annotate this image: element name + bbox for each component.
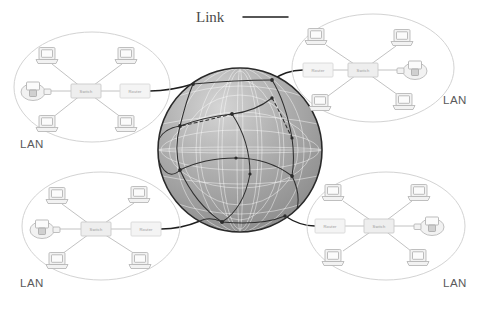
laptop-computer-icon bbox=[36, 48, 58, 64]
switch-box-icon: Switch bbox=[71, 84, 101, 98]
internet-globe bbox=[154, 64, 322, 236]
printer-icon bbox=[30, 220, 60, 239]
switch-label: Switch bbox=[80, 89, 94, 94]
printer-icon bbox=[414, 217, 444, 236]
router-box-icon: Router bbox=[120, 84, 150, 98]
switch-label: Switch bbox=[373, 224, 387, 229]
laptop-computer-icon bbox=[115, 48, 137, 64]
network-topology-figure: Link bbox=[0, 0, 481, 311]
switch-label: Switch bbox=[90, 227, 104, 232]
switch-box-icon: Switch bbox=[364, 219, 394, 233]
laptop-computer-icon bbox=[322, 250, 344, 266]
laptop-computer-icon bbox=[36, 116, 58, 132]
laptop-computer-icon bbox=[393, 94, 415, 110]
laptop-computer-icon bbox=[407, 250, 429, 266]
laptop-computer-icon bbox=[309, 95, 331, 111]
lan-top-right: Router Switch LAN bbox=[292, 14, 467, 122]
laptop-computer-icon bbox=[391, 30, 413, 46]
lan-top-left: Switch Router LAN bbox=[14, 32, 170, 150]
router-box-icon: Router bbox=[303, 63, 333, 77]
laptop-computer-icon bbox=[322, 185, 344, 201]
router-label: Router bbox=[311, 68, 325, 73]
printer-icon bbox=[21, 82, 51, 101]
laptop-computer-icon bbox=[408, 185, 430, 201]
lan-bottom-right: Router Switch LAN bbox=[307, 172, 467, 289]
laptop-computer-icon bbox=[46, 253, 68, 269]
switch-box-icon: Switch bbox=[348, 63, 378, 77]
lan-label: LAN bbox=[20, 138, 44, 150]
wan-link-bottom-left bbox=[161, 221, 200, 229]
lan-bottom-left: Switch Router LAN bbox=[20, 172, 180, 289]
laptop-computer-icon bbox=[46, 188, 68, 204]
laptop-computer-icon bbox=[115, 116, 137, 132]
laptop-computer-icon bbox=[128, 187, 150, 203]
wan-link-bottom-right bbox=[285, 216, 315, 226]
printer-icon bbox=[397, 61, 427, 80]
laptop-computer-icon bbox=[305, 29, 327, 45]
lan-label: LAN bbox=[20, 277, 44, 289]
router-box-icon: Router bbox=[315, 219, 345, 233]
legend-label: Link bbox=[196, 9, 225, 25]
router-box-icon: Router bbox=[131, 222, 161, 236]
lan-label: LAN bbox=[443, 277, 467, 289]
legend: Link bbox=[196, 9, 288, 25]
lan-label: LAN bbox=[443, 94, 467, 106]
switch-label: Switch bbox=[357, 68, 371, 73]
router-label: Router bbox=[128, 89, 142, 94]
diagram-canvas: Link bbox=[0, 0, 481, 311]
router-label: Router bbox=[323, 224, 337, 229]
switch-box-icon: Switch bbox=[81, 222, 111, 236]
router-label: Router bbox=[139, 227, 153, 232]
laptop-computer-icon bbox=[129, 253, 151, 269]
